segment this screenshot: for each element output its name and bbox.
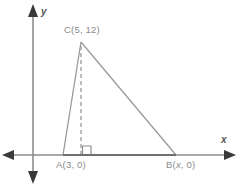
right-angle-marker-icon <box>83 146 92 154</box>
x-axis-arrow-left-icon <box>2 150 14 160</box>
y-axis-label: y <box>41 6 47 17</box>
y-axis-arrow-down-icon <box>28 171 38 184</box>
vertex-label-c: C(5, 12) <box>64 24 100 35</box>
triangle-side-ca <box>63 42 81 155</box>
x-axis-arrow-right-icon <box>224 150 236 160</box>
triangle-side-cb <box>81 42 176 155</box>
x-axis-label: x <box>221 134 227 145</box>
y-axis-arrow-up-icon <box>28 4 38 17</box>
vertex-label-a: A(3, 0) <box>56 159 86 170</box>
geometry-diagram <box>0 0 238 186</box>
vertex-label-b: B(x, 0) <box>166 159 195 170</box>
